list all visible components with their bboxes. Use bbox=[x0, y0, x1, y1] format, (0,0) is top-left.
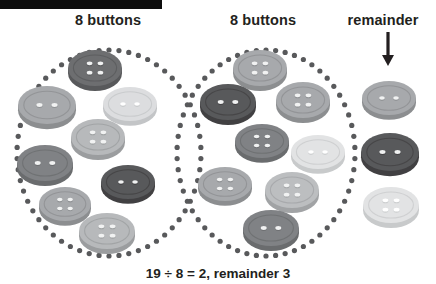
group-2-heading: 8 buttons bbox=[200, 12, 326, 28]
button-token bbox=[75, 209, 139, 258]
button-token bbox=[358, 77, 420, 124]
button-token bbox=[231, 120, 293, 167]
button-token bbox=[239, 206, 303, 255]
down-arrow-icon bbox=[379, 32, 397, 66]
button-token bbox=[194, 163, 256, 210]
equation-caption: 19 ÷ 8 = 2, remainder 3 bbox=[0, 266, 436, 281]
remainder-heading: remainder bbox=[330, 12, 436, 28]
illustration-canvas: 8 buttons8 buttonsremainder 19 ÷ 8 = 2, … bbox=[0, 0, 436, 284]
button-token bbox=[359, 183, 423, 232]
group-1-heading: 8 buttons bbox=[45, 12, 171, 28]
button-token bbox=[97, 161, 159, 208]
button-token bbox=[357, 129, 423, 180]
top-black-bar bbox=[0, 0, 162, 9]
